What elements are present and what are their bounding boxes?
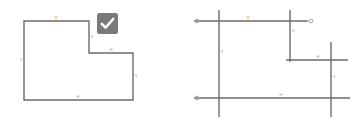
figure-board: H V H V H V HVVHVH [0,0,361,124]
edge-label-bottom: H [77,94,80,99]
status-badge-correct [97,13,118,34]
open-segments-svg: HVVHVH [180,0,361,124]
closed-polygon-svg: H V H V H V [0,0,180,124]
edge-label-right-upper: V [91,34,94,39]
edge-label-right-lower: V [135,73,138,78]
panel-correct-example: H V H V H V [0,0,180,124]
segment-label-right-upper: V [292,28,295,33]
edge-label-top: H [55,15,58,20]
segment-label-right-lower: V [333,74,336,79]
segment-label-left: V [221,49,224,54]
segment-label-middle: H [317,54,320,59]
edge-label-middle: H [110,47,113,52]
panel-incorrect-example: HVVHVH [180,0,361,124]
edge-label-left: V [20,57,23,62]
segment-label-bottom: H [280,92,283,97]
overshooting-line-segments [194,10,350,117]
check-icon [97,13,118,34]
endpoint-marker-top-right [309,19,313,23]
segment-labels: HVVHVH [221,15,336,97]
segment-label-top: H [247,15,250,20]
